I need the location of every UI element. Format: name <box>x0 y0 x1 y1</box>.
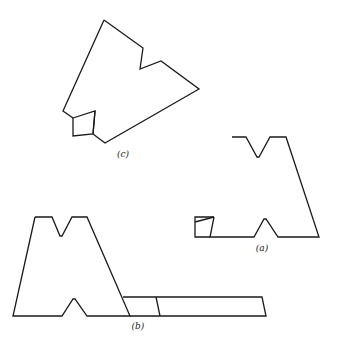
panel-b-rect <box>123 297 266 316</box>
panel-b-outline <box>13 217 130 316</box>
panel-a-outline <box>210 137 319 237</box>
panel-c-square <box>73 111 95 136</box>
panel-a-box-diagonal <box>195 217 214 222</box>
panel-b-rect-divider <box>156 297 160 316</box>
panel-b-label: (b) <box>132 321 145 331</box>
panel-a: (a) <box>195 137 319 253</box>
panel-b: (b) <box>13 217 266 331</box>
panel-c-outline-left <box>63 20 104 118</box>
panel-c-outline <box>93 20 199 143</box>
figure-canvas: (c) (a) (b) <box>0 0 338 343</box>
panel-c-label: (c) <box>117 149 130 159</box>
panel-a-label: (a) <box>256 243 269 253</box>
panel-c: (c) <box>63 20 199 159</box>
